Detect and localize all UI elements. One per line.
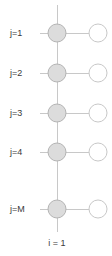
row-label-1: j=1 xyxy=(10,29,22,38)
lattice-canvas xyxy=(0,0,112,256)
lattice-diagram: j=1j=2j=3j=4j=M i = 1 xyxy=(0,0,112,256)
lattice-node-filled-r3c1[interactable] xyxy=(48,104,66,122)
column-axis-label: i = 1 xyxy=(48,239,65,248)
edge-layer xyxy=(40,5,98,232)
row-label-3: j=3 xyxy=(10,109,22,118)
lattice-node-empty-r3c2[interactable] xyxy=(89,104,107,122)
lattice-node-empty-r5c2[interactable] xyxy=(89,200,107,218)
row-label-5: j=M xyxy=(10,205,25,214)
row-label-4: j=4 xyxy=(10,148,22,157)
lattice-node-empty-r4c2[interactable] xyxy=(89,143,107,161)
lattice-node-empty-r2c2[interactable] xyxy=(89,64,107,82)
lattice-node-filled-r2c1[interactable] xyxy=(48,64,66,82)
lattice-node-filled-r4c1[interactable] xyxy=(48,143,66,161)
row-label-2: j=2 xyxy=(10,69,22,78)
lattice-node-filled-r1c1[interactable] xyxy=(48,24,66,42)
lattice-node-empty-r1c2[interactable] xyxy=(89,24,107,42)
lattice-node-filled-r5c1[interactable] xyxy=(48,200,66,218)
